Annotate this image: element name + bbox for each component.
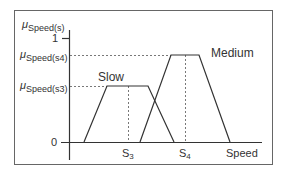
y-label-mu-s3: μSpeed(s3) bbox=[19, 79, 68, 94]
slow-membership-curve bbox=[84, 86, 174, 142]
y-label-mu-s4: μSpeed(s4) bbox=[19, 48, 68, 63]
x-axis-label: Speed bbox=[226, 147, 258, 159]
x-label-s3: S3 bbox=[122, 147, 134, 161]
y-axis-title: μSpeed(s) bbox=[21, 18, 65, 33]
y-label-0: 0 bbox=[51, 136, 57, 148]
membership-function-diagram: μSpeed(s) 1 μSpeed(s4) μSpeed(s3) 0 Slow… bbox=[0, 0, 287, 173]
y-label-1: 1 bbox=[52, 32, 58, 44]
x-label-s4: S4 bbox=[179, 147, 191, 161]
slow-label: Slow bbox=[98, 70, 124, 84]
medium-label: Medium bbox=[211, 46, 254, 60]
